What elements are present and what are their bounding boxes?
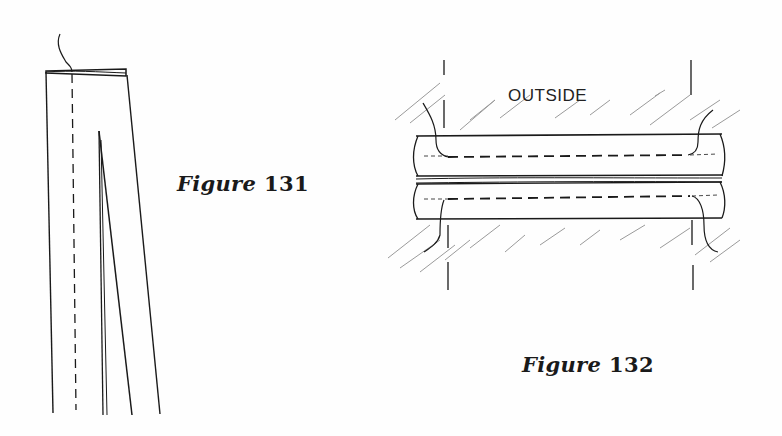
figure-131-caption: Figure131 bbox=[177, 171, 309, 196]
caption-number: 131 bbox=[264, 171, 309, 196]
figure-132-caption: Figure132 bbox=[522, 352, 654, 377]
page-canvas: OUTSIDE Figure131 Figure132 bbox=[0, 0, 782, 436]
caption-word: Figure bbox=[522, 352, 601, 377]
figure-132-illustration bbox=[0, 0, 782, 436]
caption-number: 132 bbox=[609, 352, 654, 377]
outside-label: OUTSIDE bbox=[508, 86, 587, 106]
caption-word: Figure bbox=[177, 171, 256, 196]
